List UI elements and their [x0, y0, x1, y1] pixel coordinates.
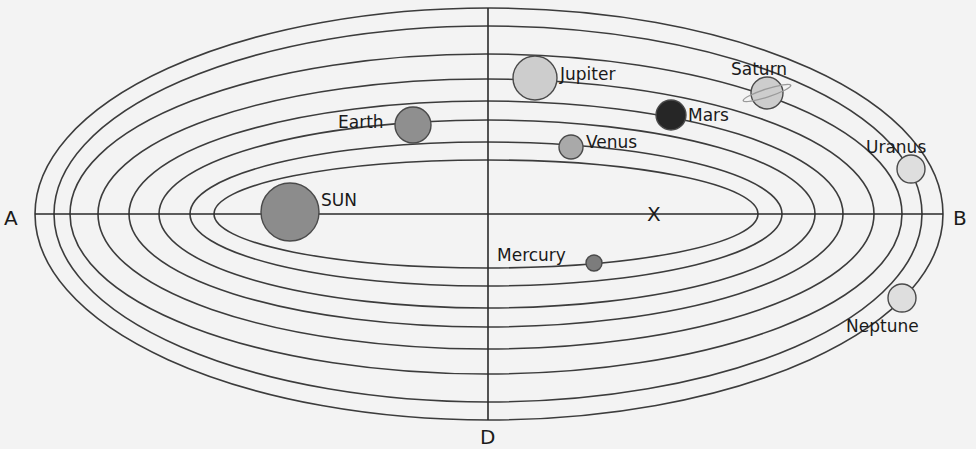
body-sun: SUN — [261, 183, 357, 241]
body-uranus: Uranus — [866, 137, 926, 183]
diagram-canvas: A B D X SUNMercuryVenusEarthMarsJupiterS… — [0, 0, 976, 449]
label-saturn: Saturn — [731, 59, 787, 79]
venus-icon — [559, 135, 583, 159]
body-jupiter: Jupiter — [513, 56, 615, 100]
body-mars: Mars — [656, 100, 729, 130]
label-mercury: Mercury — [497, 245, 566, 265]
label-neptune: Neptune — [846, 316, 919, 336]
body-venus: Venus — [559, 132, 637, 159]
celestial-bodies-group: SUNMercuryVenusEarthMarsJupiterSaturnUra… — [261, 56, 926, 336]
earth-icon — [395, 107, 431, 143]
solar-system-diagram: A B D X SUNMercuryVenusEarthMarsJupiterS… — [0, 0, 976, 449]
label-sun: SUN — [321, 190, 357, 210]
label-earth: Earth — [338, 112, 384, 132]
label-venus: Venus — [586, 132, 637, 152]
jupiter-icon — [513, 56, 557, 100]
label-point-b: B — [953, 206, 967, 230]
label-point-a: A — [4, 206, 18, 230]
label-point-x: X — [647, 202, 661, 226]
label-point-d: D — [480, 425, 495, 449]
mars-icon — [656, 100, 686, 130]
label-jupiter: Jupiter — [559, 64, 615, 84]
uranus-icon — [897, 155, 925, 183]
label-uranus: Uranus — [866, 137, 926, 157]
sun-icon — [261, 183, 319, 241]
neptune-icon — [888, 284, 916, 312]
mercury-icon — [586, 255, 602, 271]
label-mars: Mars — [688, 105, 729, 125]
